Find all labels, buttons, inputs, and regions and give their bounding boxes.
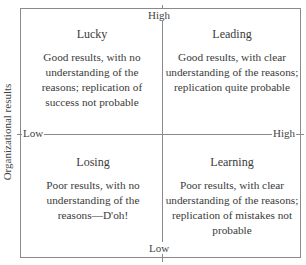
quadrant-title: Learning: [164, 155, 300, 170]
quadrant-title: Lucky: [26, 27, 158, 42]
axis-label-right-high: High: [272, 127, 296, 139]
axis-label-left-low: Low: [22, 127, 44, 139]
axis-label-top-high: High: [147, 9, 171, 21]
quadrant-description: Poor results, with no understanding of t…: [32, 178, 154, 223]
left-tick: [17, 134, 21, 135]
y-axis-label: Organizational results: [1, 77, 13, 187]
quadrant-leading: Leading Good results, with clear underst…: [164, 27, 300, 95]
axis-label-bottom-low: Low: [148, 242, 170, 254]
quadrant-lucky: Lucky Good results, with no understandin…: [26, 27, 158, 110]
vertical-axis-line: [162, 8, 163, 258]
right-tick: [300, 134, 304, 135]
quadrant-description: Good results, with clear understanding o…: [164, 50, 300, 95]
quadrant-losing: Losing Poor results, with no understandi…: [32, 155, 154, 223]
quadrant-description: Poor results, with clear understanding o…: [164, 178, 300, 238]
quadrant-title: Leading: [164, 27, 300, 42]
quadrant-description: Good results, with no understanding of t…: [26, 50, 158, 110]
horizontal-axis-line: [20, 134, 301, 135]
bottom-tick: [162, 258, 163, 262]
quadrant-title: Losing: [32, 155, 154, 170]
quadrant-learning: Learning Poor results, with clear unders…: [164, 155, 300, 238]
